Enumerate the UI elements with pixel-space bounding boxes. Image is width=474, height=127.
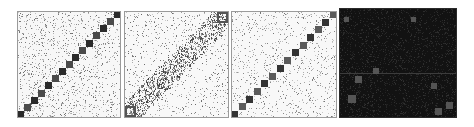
matrix-canvas-2 xyxy=(124,11,229,118)
matrix-panel-2 xyxy=(124,11,229,118)
figure-description: Four adjacency-matrix style plots with n… xyxy=(0,0,1,1)
matrix-panel-1 xyxy=(17,11,121,118)
matrix-canvas-4 xyxy=(339,8,457,118)
matrix-panel-3 xyxy=(231,11,337,118)
matrix-canvas-1 xyxy=(17,11,121,118)
matrix-panel-4 xyxy=(339,8,457,118)
matrix-canvas-3 xyxy=(231,11,337,118)
